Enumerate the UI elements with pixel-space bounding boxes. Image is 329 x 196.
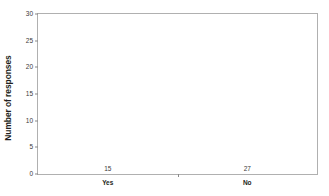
x-axis-label: No: [243, 180, 252, 187]
bar-group: 15: [38, 14, 178, 174]
x-axis-label: Yes: [102, 180, 113, 187]
bar-group: 27: [178, 14, 318, 174]
bar-chart: Number of responses 05101520253015Yes27N…: [0, 0, 329, 196]
plot-area: 05101520253015Yes27No: [37, 13, 318, 175]
y-axis-title: Number of responses: [0, 0, 16, 196]
x-tick-mark: [178, 174, 179, 177]
bar-value-label: 27: [219, 166, 276, 173]
bar-value-label: 15: [79, 166, 136, 173]
